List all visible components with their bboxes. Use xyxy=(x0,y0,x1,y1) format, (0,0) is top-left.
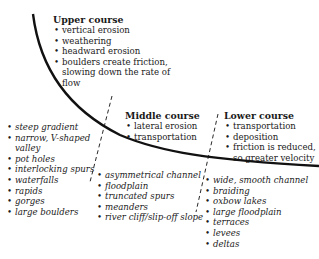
process-item: deposition xyxy=(224,132,319,143)
feature-item: floodplain xyxy=(96,181,206,192)
feature-item: large floodplain xyxy=(204,207,319,218)
feature-item: pot holes xyxy=(6,154,96,165)
feature-item: meanders xyxy=(96,202,206,213)
process-item: transportation xyxy=(224,121,319,132)
lower-course-processes: Lower course transportation deposition f… xyxy=(224,110,319,163)
process-item: lateral erosion xyxy=(125,121,215,132)
upper-course-processes: Upper course vertical erosion weathering… xyxy=(53,14,173,89)
lower-course-title: Lower course xyxy=(224,110,319,121)
feature-item: asymmetrical channel xyxy=(96,170,206,181)
upper-course-title: Upper course xyxy=(53,14,173,25)
feature-item: narrow, V-shaped valley xyxy=(6,133,96,154)
middle-course-title: Middle course xyxy=(125,110,215,121)
feature-item: steep gradient xyxy=(6,122,96,133)
lower-course-features: wide, smooth channel braiding oxbow lake… xyxy=(204,175,319,249)
feature-item: interlocking spurs xyxy=(6,164,96,175)
feature-item: truncated spurs xyxy=(96,191,206,202)
middle-course-features: asymmetrical channel floodplain truncate… xyxy=(96,170,206,223)
feature-item: oxbow lakes xyxy=(204,196,319,207)
process-item: headward erosion xyxy=(53,46,173,57)
feature-item: deltas xyxy=(204,239,319,250)
feature-item: gorges xyxy=(6,196,96,207)
process-item: weathering xyxy=(53,36,173,47)
process-item: boulders create friction, slowing down t… xyxy=(53,57,173,89)
feature-item: river cliff/slip-off slope xyxy=(96,212,206,223)
process-item: transportation xyxy=(125,132,215,143)
feature-item: large boulders xyxy=(6,207,96,218)
upper-course-features: steep gradient narrow, V-shaped valley p… xyxy=(6,122,96,217)
feature-item: waterfalls xyxy=(6,175,96,186)
feature-item: wide, smooth channel xyxy=(204,175,319,186)
feature-item: levees xyxy=(204,228,319,239)
process-item: friction is reduced, so greater velocity xyxy=(224,142,319,163)
process-item: vertical erosion xyxy=(53,25,173,36)
feature-item: rapids xyxy=(6,186,96,197)
feature-item: terraces xyxy=(204,217,319,228)
feature-item: braiding xyxy=(204,186,319,197)
middle-course-processes: Middle course lateral erosion transporta… xyxy=(125,110,215,142)
